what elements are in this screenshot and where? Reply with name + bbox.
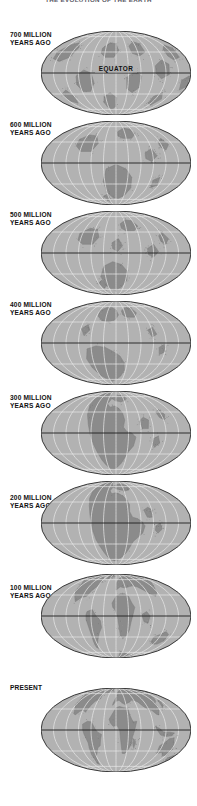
land-texture-dot bbox=[103, 622, 104, 623]
land-texture-dot bbox=[162, 756, 163, 757]
land-texture-dot bbox=[180, 89, 181, 90]
land-texture-dot bbox=[89, 91, 90, 92]
land-texture-dot bbox=[143, 160, 144, 161]
land-texture-dot bbox=[123, 226, 124, 227]
land-texture-dot bbox=[151, 697, 152, 698]
land-texture-dot bbox=[162, 60, 163, 61]
land-texture-dot bbox=[150, 185, 151, 186]
land-texture-dot bbox=[125, 640, 126, 641]
land-texture-dot bbox=[131, 96, 132, 97]
land-texture-dot bbox=[83, 327, 84, 328]
land-texture-dot bbox=[90, 414, 91, 415]
globe-container: EQUATOR bbox=[41, 31, 191, 115]
land-texture-dot bbox=[132, 308, 133, 309]
land-texture-dot bbox=[124, 128, 125, 129]
land-texture-dot bbox=[147, 620, 148, 621]
land-texture-dot bbox=[99, 56, 100, 57]
land-texture-dot bbox=[163, 141, 164, 142]
land-texture-dot bbox=[108, 169, 109, 170]
land-texture-dot bbox=[104, 576, 105, 577]
land-texture-dot bbox=[148, 250, 149, 251]
land-texture-dot bbox=[135, 132, 136, 133]
land-texture-dot bbox=[138, 135, 139, 136]
land-texture-dot bbox=[171, 241, 172, 242]
land-texture-dot bbox=[113, 577, 114, 578]
land-texture-dot bbox=[163, 640, 164, 641]
land-texture-dot bbox=[114, 729, 115, 730]
land-texture-dot bbox=[152, 188, 153, 189]
globe-container bbox=[41, 574, 191, 658]
land-texture-dot bbox=[175, 49, 176, 50]
land-texture-dot bbox=[118, 134, 119, 135]
land-texture-dot bbox=[122, 625, 123, 626]
land-texture-dot bbox=[98, 623, 99, 624]
land-texture-dot bbox=[160, 732, 161, 733]
land-texture-dot bbox=[59, 53, 60, 54]
land-texture-dot bbox=[112, 578, 113, 579]
land-texture-dot bbox=[109, 193, 110, 194]
land-texture-dot bbox=[186, 84, 187, 85]
globe-container bbox=[41, 121, 191, 205]
land-texture-dot bbox=[138, 55, 139, 56]
land-texture-dot bbox=[119, 49, 120, 50]
land-texture-dot bbox=[164, 629, 165, 630]
land-texture-dot bbox=[161, 99, 162, 100]
land-texture-dot bbox=[150, 260, 151, 261]
land-texture-dot bbox=[85, 332, 86, 333]
land-texture-dot bbox=[109, 576, 110, 577]
land-texture-dot bbox=[124, 370, 125, 371]
land-texture-dot bbox=[118, 739, 119, 740]
land-texture-dot bbox=[163, 441, 164, 442]
land-texture-dot bbox=[162, 235, 163, 236]
land-texture-dot bbox=[169, 146, 170, 147]
land-texture-dot bbox=[120, 491, 121, 492]
land-texture-dot bbox=[102, 60, 103, 61]
land-texture-dot bbox=[112, 42, 113, 43]
land-texture-dot bbox=[100, 744, 101, 745]
land-texture-dot bbox=[99, 279, 100, 280]
land-texture-dot bbox=[83, 247, 84, 248]
land-texture-dot bbox=[114, 576, 115, 577]
land-texture-dot bbox=[143, 420, 144, 421]
land-texture-dot bbox=[188, 78, 189, 79]
land-texture-dot bbox=[168, 736, 169, 737]
land-texture-dot bbox=[166, 743, 167, 744]
land-texture-dot bbox=[153, 698, 154, 699]
figure-title: THE EVOLUTION OF THE EARTH bbox=[0, 0, 197, 3]
land-texture-dot bbox=[126, 597, 127, 598]
land-texture-dot bbox=[142, 428, 143, 429]
land-texture-dot bbox=[51, 58, 52, 59]
land-texture-dot bbox=[159, 701, 160, 702]
land-texture-dot bbox=[99, 310, 100, 311]
land-texture-dot bbox=[161, 177, 162, 178]
land-texture-dot bbox=[96, 489, 97, 490]
land-texture-dot bbox=[136, 233, 137, 234]
land-texture-dot bbox=[165, 418, 166, 419]
land-texture-dot bbox=[89, 330, 90, 331]
land-texture-dot bbox=[120, 488, 121, 489]
land-texture-dot bbox=[182, 59, 183, 60]
land-texture-dot bbox=[103, 582, 104, 583]
land-texture-dot bbox=[114, 198, 115, 199]
land-texture-dot bbox=[93, 525, 94, 526]
land-texture-dot bbox=[90, 137, 91, 138]
land-texture-dot bbox=[154, 248, 155, 249]
land-texture-dot bbox=[85, 69, 86, 70]
land-texture-dot bbox=[121, 428, 122, 429]
land-texture-dot bbox=[154, 334, 155, 335]
land-texture-dot bbox=[158, 524, 159, 525]
land-texture-dot bbox=[181, 84, 182, 85]
land-texture-dot bbox=[164, 53, 165, 54]
land-texture-dot bbox=[169, 239, 170, 240]
land-texture-dot bbox=[149, 592, 150, 593]
land-texture-dot bbox=[129, 488, 130, 489]
land-texture-dot bbox=[121, 490, 122, 491]
land-texture-dot bbox=[76, 77, 77, 78]
land-texture-dot bbox=[162, 737, 163, 738]
land-texture-dot bbox=[166, 143, 167, 144]
land-texture-dot bbox=[154, 182, 155, 183]
land-texture-dot bbox=[133, 750, 134, 751]
land-texture-dot bbox=[150, 593, 151, 594]
land-texture-dot bbox=[164, 641, 165, 642]
land-texture-dot bbox=[129, 551, 130, 552]
